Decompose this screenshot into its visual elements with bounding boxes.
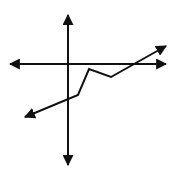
coordinate-plane (0, 0, 175, 179)
diagram-canvas (0, 0, 175, 179)
piecewise-graph-line (25, 46, 166, 117)
